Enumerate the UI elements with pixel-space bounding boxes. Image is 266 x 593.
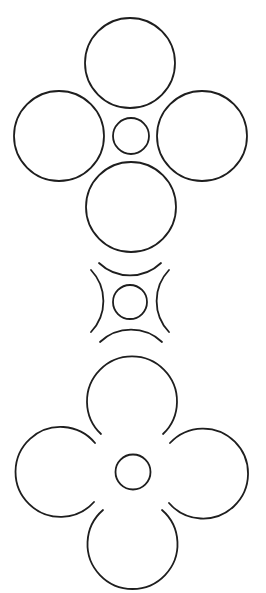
figure-flower (16, 356, 249, 589)
center-circle (113, 285, 147, 319)
petal-arc-right (169, 429, 248, 519)
figure-four-circles (14, 18, 247, 252)
petal-arc-top (87, 356, 177, 434)
concave-arc-left (91, 270, 103, 332)
petal-arc-left (16, 427, 95, 517)
center-circle (113, 118, 149, 154)
figure-concave-arcs (91, 263, 169, 342)
concave-arc-bottom (100, 330, 162, 342)
outer-circle-bottom (86, 162, 176, 252)
concave-arc-right (157, 270, 169, 332)
diagram-canvas (0, 0, 266, 593)
petal-arc-bottom (88, 510, 178, 589)
outer-circle-right (157, 91, 247, 181)
concave-arc-top (99, 263, 161, 275)
outer-circle-left (14, 91, 104, 181)
center-circle (116, 455, 151, 490)
outer-circle-top (85, 18, 175, 108)
